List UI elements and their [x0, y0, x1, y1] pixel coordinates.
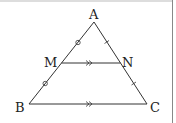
label-N: N: [122, 55, 133, 70]
label-A: A: [88, 7, 99, 22]
label-M: M: [44, 55, 57, 70]
triangle-diagram: A M N B C: [0, 0, 176, 123]
label-B: B: [15, 100, 25, 115]
label-C: C: [150, 100, 160, 115]
tick-mark-NC: [132, 82, 137, 85]
